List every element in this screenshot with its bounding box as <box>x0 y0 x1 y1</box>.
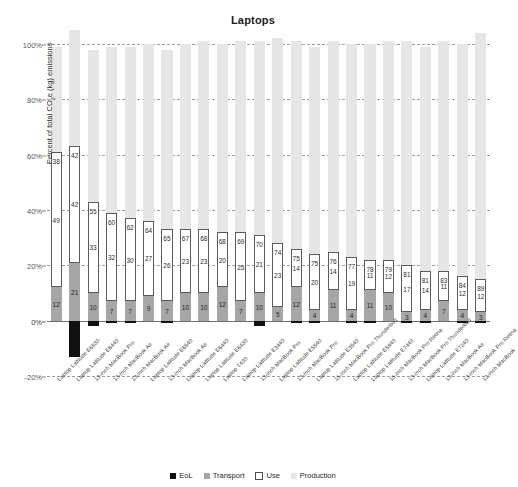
y-tick-mark-20 <box>42 266 46 267</box>
bar-group[interactable]: 72665 <box>161 44 172 376</box>
bar-segment-production <box>401 41 412 265</box>
bar-group[interactable]: 102367 <box>180 44 191 376</box>
bar-segment-production <box>438 41 449 271</box>
bar-segment-use <box>328 252 339 291</box>
bar-segment-production <box>272 38 283 243</box>
bar-segment-use <box>143 221 154 296</box>
bar-group[interactable]: 72569 <box>235 44 246 376</box>
bar-group[interactable]: 103355 <box>88 44 99 376</box>
bar-segment-eol <box>364 321 375 324</box>
bar-group[interactable]: 73260 <box>106 44 117 376</box>
legend-label-eol: EoL <box>179 471 192 480</box>
bar-group[interactable]: 92764 <box>143 44 154 376</box>
y-tick-mark-0 <box>42 321 46 322</box>
bar-segment-production <box>328 41 339 251</box>
bar-group[interactable]: 122068 <box>217 44 228 376</box>
bar-group[interactable]: 52374 <box>272 44 283 376</box>
bar-group[interactable]: 214242 <box>69 44 80 376</box>
y-tick-mark--20 <box>42 377 46 378</box>
bar-segment-use <box>106 213 117 302</box>
bar-segment-production <box>106 47 117 213</box>
legend-swatch-use <box>255 472 263 480</box>
bar-segment-transport <box>383 293 394 321</box>
bar-segment-eol <box>125 321 136 324</box>
bar-segment-transport <box>198 293 209 321</box>
bar-segment-production <box>291 41 302 249</box>
chart-legend: EoLTransportUseProduction <box>0 471 506 480</box>
bar-segment-transport <box>346 310 357 321</box>
bar-segment-use <box>291 249 302 288</box>
bar-segment-transport <box>106 301 117 320</box>
bar-segment-eol <box>401 321 412 324</box>
bar-segment-transport <box>180 293 191 321</box>
bar-segment-production <box>420 47 431 271</box>
bar-segment-production <box>457 44 468 276</box>
legend-swatch-transport <box>204 473 210 479</box>
bar-group[interactable]: 42075 <box>309 44 320 376</box>
bar-segment-use <box>161 229 172 301</box>
bar-segment-transport <box>217 287 228 320</box>
chart-title: Laptops <box>0 14 506 26</box>
bar-segment-transport <box>438 301 449 320</box>
legend-label-use: Use <box>266 471 279 480</box>
legend-item-transport[interactable]: Transport <box>204 471 245 480</box>
bar-segment-production <box>125 47 136 219</box>
bar-segment-production <box>309 47 320 255</box>
bar-segment-use <box>88 202 99 293</box>
bar-segment-production <box>143 44 154 221</box>
y-axis-label: Percent of total CO2e (kg) emissions <box>45 0 56 164</box>
bar-group[interactable]: 111178 <box>364 44 375 376</box>
bar-group[interactable]: 41481 <box>420 44 431 376</box>
bar-segment-transport <box>364 290 375 320</box>
bar-segment-use <box>180 229 191 293</box>
y-tick-mark-40 <box>42 211 46 212</box>
bar-segment-use <box>272 243 283 307</box>
bar-segment-transport <box>420 310 431 321</box>
bar-segment-eol <box>309 321 320 324</box>
bar-segment-transport <box>291 287 302 320</box>
bar-segment-use <box>217 232 228 287</box>
bar-segment-transport <box>143 296 154 321</box>
legend-item-production[interactable]: Production <box>291 471 336 480</box>
bar-segment-transport <box>401 312 412 320</box>
bar-segment-use <box>346 257 357 310</box>
bar-group[interactable]: 31781 <box>401 44 412 376</box>
bar-segment-production <box>364 44 375 260</box>
bar-group[interactable]: 73062 <box>125 44 136 376</box>
bar-segment-transport <box>161 301 172 320</box>
bar-group[interactable]: 102368 <box>198 44 209 376</box>
bar-segment-production <box>383 41 394 260</box>
bar-group[interactable]: 121475 <box>291 44 302 376</box>
y-tick-label-0: 0% <box>31 317 42 326</box>
bar-segment-production <box>88 50 99 202</box>
bar-group[interactable]: 102170 <box>254 44 265 376</box>
bar-segment-transport <box>475 312 486 320</box>
bar-segment-use <box>420 271 431 310</box>
bar-group[interactable]: 31289 <box>475 44 486 376</box>
bar-segment-eol <box>88 321 99 327</box>
bar-segment-transport <box>88 293 99 321</box>
legend-item-use[interactable]: Use <box>255 471 279 480</box>
bar-segment-eol <box>475 321 486 324</box>
bar-segment-use <box>69 146 80 262</box>
bar-segment-use <box>235 232 246 301</box>
bar-segment-use <box>198 229 209 293</box>
bar-group[interactable]: 41977 <box>346 44 357 376</box>
bar-segment-use <box>51 152 62 288</box>
bar-segment-transport <box>235 301 246 320</box>
bar-segment-production <box>217 44 228 232</box>
bar-segment-production <box>180 44 191 229</box>
bar-segment-production <box>161 50 172 230</box>
bar-segment-use <box>438 271 449 301</box>
bar-group[interactable]: 111476 <box>328 44 339 376</box>
y-tick-label-20: 20% <box>27 262 42 271</box>
legend-swatch-eol <box>170 473 176 479</box>
legend-item-eol[interactable]: EoL <box>170 471 192 480</box>
bar-segment-production <box>235 41 246 232</box>
y-tick-label-100: 100% <box>23 41 42 50</box>
bar-segment-production <box>346 44 357 257</box>
bar-segment-eol <box>346 321 357 324</box>
bar-segment-use <box>475 279 486 312</box>
y-tick-label-80: 80% <box>27 96 42 105</box>
